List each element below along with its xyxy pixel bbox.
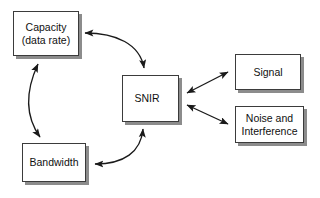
node-noise-label: Noise and Interference xyxy=(239,112,299,137)
node-bandwidth: Bandwidth xyxy=(22,143,86,182)
node-noise: Noise and Interference xyxy=(235,106,304,143)
edge-capacity-snir xyxy=(85,33,144,68)
node-capacity-label: Capacity (data rate) xyxy=(20,21,72,46)
node-signal-label: Signal xyxy=(251,66,284,79)
edge-capacity-bandwidth xyxy=(28,64,40,137)
edge-snir-signal xyxy=(187,72,228,93)
edge-snir-bandwidth xyxy=(95,129,143,164)
node-signal: Signal xyxy=(235,54,301,90)
edge-snir-noise xyxy=(187,105,228,124)
diagram-canvas: Capacity (data rate) Bandwidth SNIR Sign… xyxy=(0,0,320,198)
node-capacity: Capacity (data rate) xyxy=(13,11,79,56)
node-snir-label: SNIR xyxy=(132,92,168,105)
node-bandwidth-label: Bandwidth xyxy=(27,156,80,169)
node-snir: SNIR xyxy=(122,75,179,122)
